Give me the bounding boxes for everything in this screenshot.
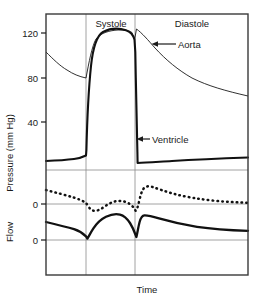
chart-canvas: 120 80 40 0 0 Pressure (mm Hg) Flow Syst… bbox=[0, 0, 265, 304]
y-tick-label-120: 120 bbox=[22, 28, 38, 39]
annotation-label-ventricle: Ventricle bbox=[152, 134, 188, 145]
pressure-axis-title: Pressure (mm Hg) bbox=[4, 114, 15, 192]
x-axis-title: Time bbox=[137, 284, 158, 295]
phase-label-diastole: Diastole bbox=[175, 18, 209, 29]
annotation-label-aorta: Aorta bbox=[178, 39, 201, 50]
cardiac-cycle-figure: 120 80 40 0 0 Pressure (mm Hg) Flow Syst… bbox=[0, 0, 265, 304]
phase-label-systole: Systole bbox=[95, 18, 126, 29]
y-tick-label-flow-zero-upper: 0 bbox=[33, 199, 38, 210]
y-tick-label-40: 40 bbox=[27, 117, 38, 128]
plot-background bbox=[46, 14, 248, 275]
flow-axis-title: Flow bbox=[4, 222, 15, 242]
y-tick-label-80: 80 bbox=[27, 73, 38, 84]
y-tick-label-flow-zero-lower: 0 bbox=[33, 235, 38, 246]
y-tick-marks bbox=[41, 33, 46, 240]
